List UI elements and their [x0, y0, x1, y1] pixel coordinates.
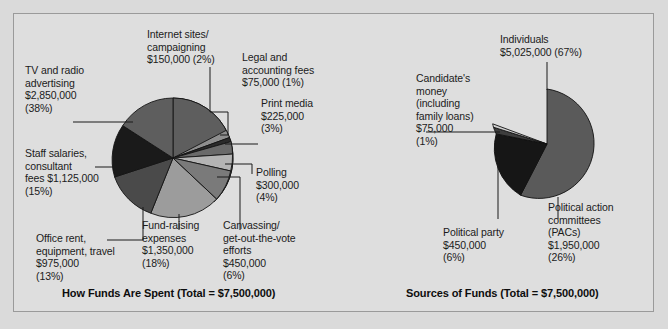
label-political-party: Political party $450,000 (6%) [443, 226, 504, 264]
label-tv-radio: TV and radio advertising $2,850,000 (38%… [25, 64, 84, 114]
label-office-rent: Office rent, equipment, travel $975,000 … [36, 232, 115, 282]
left-chart-panel: TV and radio advertising $2,850,000 (38%… [14, 14, 362, 313]
label-pacs: Political action committees (PACs) $1,95… [548, 201, 614, 264]
label-fundraising: Fund-raising expenses $1,350,000 (18%) [142, 219, 199, 269]
label-polling: Polling $300,000 (4%) [256, 166, 299, 204]
label-individuals: Individuals $5,025,000 (67%) [500, 33, 582, 58]
right-pie [493, 89, 594, 198]
figure-frame: TV and radio advertising $2,850,000 (38%… [13, 13, 654, 312]
left-pie [112, 98, 233, 218]
right-chart-panel: Individuals $5,025,000 (67%) Candidate's… [362, 14, 655, 313]
label-canvassing: Canvassing/ get-out-the-vote efforts $45… [223, 219, 296, 282]
right-pie-svg [362, 14, 655, 313]
label-candidate-money: Candidate's money (including family loan… [416, 72, 474, 148]
left-chart-caption: How Funds Are Spent (Total = $7,500,000) [62, 287, 275, 299]
label-staff-salaries: Staff salaries, consultant fees $1,125,0… [25, 147, 99, 197]
right-chart-caption: Sources of Funds (Total = $7,500,000) [406, 287, 599, 299]
label-internet-sites: Internet sites/ campaigning $150,000 (2%… [147, 28, 215, 66]
label-print-media: Print media $225,000 (3%) [261, 97, 313, 135]
label-legal-accounting: Legal and accounting fees $75,000 (1%) [242, 51, 314, 89]
